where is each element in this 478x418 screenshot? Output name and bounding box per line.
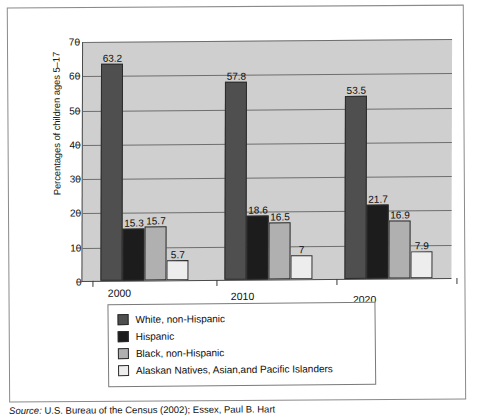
bar: 15.3 — [122, 228, 144, 281]
bar-group: 53.521.716.97.9 — [344, 39, 433, 279]
bar-value-label: 7.9 — [415, 240, 429, 251]
x-tick-label-2010: 2010 — [207, 290, 277, 302]
bar: 16.9 — [388, 220, 410, 278]
legend-label: White, non-Hispanic — [136, 313, 226, 325]
bar: 21.7 — [366, 204, 388, 279]
bar-value-label: 21.7 — [368, 193, 387, 204]
x-axis-labels: 200020102020 — [22, 20, 462, 23]
y-tick-mark — [76, 179, 81, 180]
bar: 63.2 — [100, 64, 123, 281]
bar: 7 — [290, 255, 312, 279]
bar: 18.6 — [246, 216, 268, 280]
legend-swatch — [118, 365, 129, 376]
bar-group: 63.215.315.75.7 — [100, 41, 189, 281]
bar-value-label: 18.6 — [248, 205, 267, 216]
bar: 16.5 — [268, 223, 290, 280]
bar-value-label: 53.5 — [347, 84, 366, 95]
figure-frame: Percentages of children ages 5–17 706050… — [7, 5, 466, 403]
bar-value-label: 63.2 — [103, 53, 122, 64]
x-tick-mark — [456, 278, 457, 284]
bar-value-label: 57.8 — [227, 71, 246, 82]
y-tick-mark — [75, 76, 80, 77]
plot-area: 63.215.315.75.757.818.616.5753.521.716.9… — [81, 39, 452, 282]
source-caption: Source: U.S. Bureau of the Census (2002)… — [9, 403, 275, 416]
legend-swatch — [118, 331, 129, 342]
legend-swatch — [118, 314, 129, 325]
x-tick-mark — [336, 279, 337, 285]
scanned-page: Percentages of children ages 5–17 706050… — [0, 0, 478, 418]
source-prefix: Source: — [9, 405, 42, 416]
y-tick-mark — [75, 41, 80, 42]
bar-value-label: 7 — [299, 244, 305, 255]
bar-chart: Percentages of children ages 5–17 706050… — [22, 20, 464, 293]
bar-value-label: 16.5 — [270, 212, 289, 223]
bar-value-label: 5.7 — [171, 250, 185, 261]
bar: 5.7 — [166, 261, 188, 281]
bar: 57.8 — [224, 82, 247, 280]
x-tick-mark — [216, 280, 217, 286]
legend-swatch — [118, 348, 129, 359]
y-tick-mark — [76, 144, 81, 145]
bar: 53.5 — [344, 95, 366, 279]
bar-group: 57.818.616.57 — [224, 40, 313, 280]
bar-value-label: 15.3 — [124, 217, 143, 228]
source-text: U.S. Bureau of the Census (2002); Essex,… — [42, 403, 275, 415]
x-tick-label-2000: 2000 — [84, 287, 154, 299]
legend-item: Alaskan Natives, Asian,and Pacific Islan… — [118, 360, 367, 379]
y-tick-mark — [75, 110, 80, 111]
y-tick-mark — [76, 213, 81, 214]
legend-label: Alaskan Natives, Asian,and Pacific Islan… — [136, 363, 333, 376]
y-tick-mark — [76, 247, 81, 248]
chart-legend: White, non-HispanicHispanicBlack, non-Hi… — [107, 302, 376, 388]
bar-value-label: 16.9 — [390, 209, 409, 220]
bar: 15.7 — [144, 226, 166, 280]
legend-label: Black, non-Hispanic — [136, 347, 224, 359]
bar: 7.9 — [410, 251, 432, 278]
bar-value-label: 15.7 — [146, 215, 165, 226]
y-axis-ticks: 706050403020100 — [48, 42, 81, 282]
legend-label: Hispanic — [136, 331, 174, 342]
